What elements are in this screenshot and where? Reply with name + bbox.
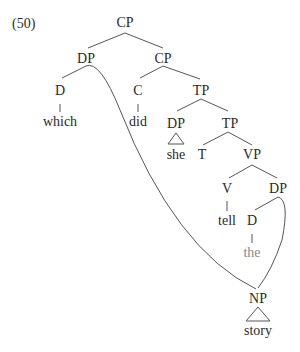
node-v: V — [222, 181, 232, 196]
node-np: NP — [249, 291, 267, 306]
word-story: story — [244, 323, 272, 338]
node-vp: VP — [243, 147, 261, 162]
word-did: did — [129, 114, 147, 129]
syntax-tree: (50) CP DP CP D which C did TP DP — [0, 0, 300, 352]
triangle-story — [246, 307, 270, 321]
node-dp-obj: DP — [269, 181, 287, 196]
node-d-obj: D — [247, 213, 257, 228]
movement-line-obj — [258, 197, 285, 288]
node-tp-lower: TP — [222, 116, 239, 131]
node-d-wh: D — [55, 83, 65, 98]
node-t: T — [198, 147, 207, 162]
word-the: the — [243, 245, 260, 260]
tree-nodes: CP DP CP D which C did TP DP she TP T VP… — [43, 15, 287, 338]
node-dp-subj: DP — [167, 116, 185, 131]
word-she: she — [167, 147, 186, 162]
word-which: which — [43, 114, 77, 129]
triangle-she — [168, 133, 184, 144]
node-cp-root: CP — [116, 15, 133, 30]
node-tp-upper: TP — [193, 83, 210, 98]
tree-edges — [60, 33, 285, 321]
word-tell: tell — [218, 213, 236, 228]
node-c: C — [133, 83, 142, 98]
node-dp-wh: DP — [77, 51, 95, 66]
example-number: (50) — [12, 16, 36, 32]
node-cp-lower: CP — [154, 51, 171, 66]
